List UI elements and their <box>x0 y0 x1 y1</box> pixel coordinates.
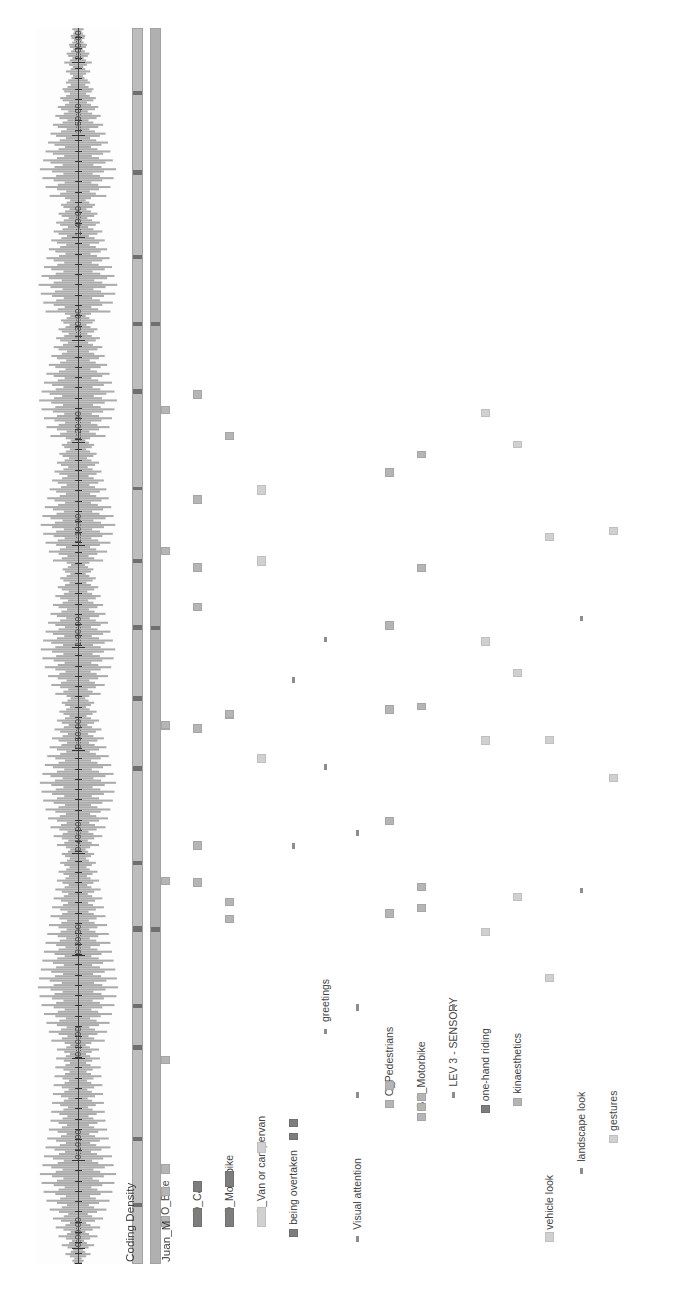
density-segment[interactable] <box>133 625 142 631</box>
density-segment[interactable] <box>133 559 142 563</box>
annotation-tier-row[interactable]: landscape look <box>576 28 588 1264</box>
annotation-tier-row[interactable]: LEV 3 - SENSORY <box>448 28 460 1264</box>
annotation-block[interactable] <box>225 1208 234 1227</box>
density-segment[interactable] <box>133 861 142 865</box>
annotation-block[interactable] <box>356 830 359 836</box>
annotation-block[interactable] <box>324 764 327 770</box>
annotation-block[interactable] <box>193 495 202 504</box>
density-segment[interactable] <box>133 696 142 700</box>
annotation-block[interactable] <box>417 883 426 890</box>
annotation-block[interactable] <box>193 878 202 887</box>
annotation-tier-row[interactable]: vehicle look <box>544 28 556 1264</box>
annotation-block[interactable] <box>580 1168 583 1174</box>
density-segment[interactable] <box>133 255 142 259</box>
annotation-block[interactable] <box>193 841 202 850</box>
annotation-block[interactable] <box>289 1229 298 1237</box>
annotation-block[interactable] <box>481 736 490 745</box>
annotation-block[interactable] <box>193 563 202 572</box>
annotation-block[interactable] <box>324 637 327 643</box>
annotation-block[interactable] <box>417 703 426 710</box>
annotation-block[interactable] <box>161 406 170 413</box>
annotation-block[interactable] <box>385 468 394 477</box>
annotation-block[interactable] <box>481 928 490 937</box>
annotation-tier-row[interactable]: gestures <box>608 28 620 1264</box>
annotation-block[interactable] <box>292 677 295 683</box>
annotation-tier-area[interactable]: O_BikeO_CarO_MotorbikeO_Van or campervan… <box>160 28 660 1264</box>
participant-segment[interactable] <box>151 322 160 326</box>
density-segment[interactable] <box>133 389 142 395</box>
coding-density-strip[interactable] <box>132 28 143 1264</box>
annotation-block[interactable] <box>385 621 394 630</box>
annotation-block[interactable] <box>385 705 394 714</box>
annotation-block[interactable] <box>193 1181 202 1192</box>
annotation-block[interactable] <box>225 710 234 717</box>
annotation-block[interactable] <box>417 1113 426 1120</box>
annotation-tier-row[interactable]: BO_Motorbike <box>416 28 428 1264</box>
annotation-block[interactable] <box>292 843 295 849</box>
annotation-block[interactable] <box>257 1142 266 1153</box>
annotation-block[interactable] <box>161 1216 170 1227</box>
annotation-block[interactable] <box>513 893 522 900</box>
annotation-block[interactable] <box>385 1100 394 1109</box>
participant-segment[interactable] <box>151 927 160 931</box>
annotation-block[interactable] <box>609 1135 618 1143</box>
annotation-block[interactable] <box>417 451 426 458</box>
annotation-block[interactable] <box>225 432 234 439</box>
density-segment[interactable] <box>133 1203 142 1207</box>
density-segment[interactable] <box>133 926 142 932</box>
annotation-block[interactable] <box>417 904 426 911</box>
annotation-block[interactable] <box>161 1187 170 1196</box>
density-segment[interactable] <box>133 1045 142 1050</box>
annotation-block[interactable] <box>324 1029 327 1035</box>
density-segment[interactable] <box>133 487 142 491</box>
annotation-block[interactable] <box>289 1119 298 1126</box>
annotation-block[interactable] <box>225 898 234 905</box>
density-segment[interactable] <box>133 322 142 326</box>
annotation-block[interactable] <box>545 974 554 982</box>
annotation-block[interactable] <box>257 1207 266 1227</box>
density-segment[interactable] <box>133 1137 142 1141</box>
annotation-block[interactable] <box>161 721 170 728</box>
annotation-block[interactable] <box>609 527 618 535</box>
annotation-block[interactable] <box>356 1004 359 1010</box>
annotation-block[interactable] <box>225 915 234 922</box>
density-segment[interactable] <box>133 1004 142 1008</box>
annotation-block[interactable] <box>417 1093 426 1100</box>
annotation-tier-row[interactable]: greetings <box>320 28 332 1264</box>
annotation-block[interactable] <box>225 1171 234 1187</box>
annotation-block[interactable] <box>161 1164 170 1174</box>
annotation-tier-row[interactable]: one-hand riding <box>480 28 492 1264</box>
annotation-block[interactable] <box>385 817 394 826</box>
annotation-tier-row[interactable]: O_Car <box>192 28 204 1264</box>
annotation-tier-row[interactable]: O_Pedestrians <box>384 28 396 1264</box>
density-segment[interactable] <box>133 766 142 771</box>
annotation-block[interactable] <box>161 1056 170 1063</box>
audio-waveform-track[interactable]: 0:00:000:10:000:20:000:30:000:40:000:50:… <box>36 28 120 1264</box>
annotation-block[interactable] <box>481 1105 490 1114</box>
annotation-block[interactable] <box>513 441 522 448</box>
annotation-block[interactable] <box>385 909 394 918</box>
annotation-block[interactable] <box>385 1081 394 1090</box>
density-segment[interactable] <box>133 170 142 175</box>
annotation-block[interactable] <box>193 1208 202 1227</box>
annotation-block[interactable] <box>289 1133 298 1140</box>
annotation-block[interactable] <box>417 564 426 571</box>
annotation-tier-row[interactable]: O_Van or campervan <box>256 28 268 1264</box>
annotation-tier-row[interactable]: O_Motorbike <box>224 28 236 1264</box>
annotation-tier-row[interactable]: O_Bike <box>160 28 172 1264</box>
participant-segment[interactable] <box>151 626 160 630</box>
annotation-block[interactable] <box>481 409 490 418</box>
annotation-block[interactable] <box>193 724 202 733</box>
annotation-block[interactable] <box>609 774 618 782</box>
annotation-block[interactable] <box>580 616 583 622</box>
annotation-block[interactable] <box>545 533 554 541</box>
annotation-tier-row[interactable]: Visual attention <box>352 28 364 1264</box>
annotation-block[interactable] <box>417 1103 426 1110</box>
annotation-block[interactable] <box>545 736 554 744</box>
annotation-block[interactable] <box>161 877 170 884</box>
annotation-block[interactable] <box>356 1092 359 1098</box>
annotation-tier-row[interactable]: kinaesthetics <box>512 28 524 1264</box>
annotation-block[interactable] <box>513 670 522 677</box>
annotation-block[interactable] <box>580 888 583 894</box>
annotation-block[interactable] <box>452 1004 455 1010</box>
